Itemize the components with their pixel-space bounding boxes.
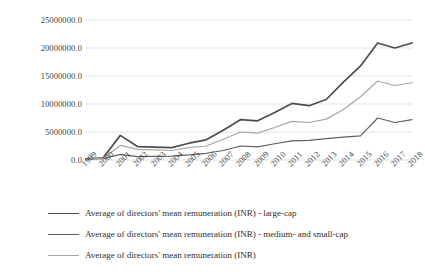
legend-label: Average of directors' mean remuneration …	[85, 250, 256, 261]
legend-item[interactable]: Average of directors' mean remuneration …	[0, 245, 420, 266]
y-tick-label: 5000000.0	[0, 128, 82, 137]
legend-swatch-icon	[48, 213, 79, 214]
y-tick-label: 25000000.0	[0, 16, 82, 25]
legend-label: Average of directors' mean remuneration …	[85, 208, 296, 219]
legend-swatch-icon	[48, 234, 79, 235]
plot-svg	[86, 20, 412, 160]
y-tick-label: 0.0	[0, 156, 82, 165]
legend-label: Average of directors' mean remuneration …	[85, 229, 348, 240]
legend-swatch-icon	[48, 255, 79, 256]
gridlines	[86, 20, 412, 160]
legend-item[interactable]: Average of directors' mean remuneration …	[0, 224, 420, 245]
y-tick-label: 15000000.0	[0, 72, 82, 81]
legend-item[interactable]: Average of directors' mean remuneration …	[0, 203, 420, 224]
x-axis: 1999200020012002200320042005200620072008…	[86, 162, 416, 202]
y-tick-label: 10000000.0	[0, 100, 82, 109]
y-tick-label: 20000000.0	[0, 44, 82, 53]
series-lines	[86, 43, 412, 159]
series-line	[86, 43, 412, 159]
y-axis: 25000000.020000000.015000000.010000000.0…	[0, 0, 82, 180]
plot-area	[86, 20, 412, 160]
chart-legend: Average of directors' mean remuneration …	[0, 203, 420, 266]
